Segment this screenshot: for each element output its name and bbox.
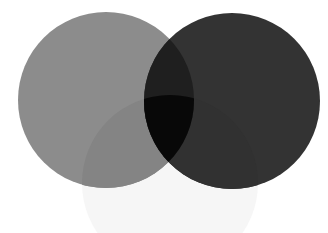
venn-diagram bbox=[0, 0, 328, 233]
venn-diagram-canvas bbox=[0, 0, 328, 233]
